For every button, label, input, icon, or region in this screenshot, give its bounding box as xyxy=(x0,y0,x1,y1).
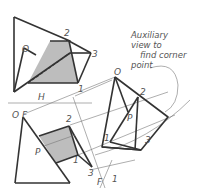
front-view: O F 2 P 1 3 F 1 xyxy=(12,110,118,187)
front-label-1: 1 xyxy=(73,155,79,165)
top-label-2: 2 xyxy=(64,28,70,38)
front-label-p: P xyxy=(35,147,41,157)
fold-label-h: H xyxy=(38,92,45,102)
front-label-2: 2 xyxy=(66,114,72,124)
front-label-3: 3 xyxy=(88,168,94,178)
top-label-3: 3 xyxy=(92,49,98,59)
svg-text:find corner: find corner xyxy=(140,50,187,60)
aux-label-o: O xyxy=(114,67,121,77)
aux-fold-label-1: 1 xyxy=(112,174,118,184)
aux-label-3: 3 xyxy=(145,135,151,145)
svg-text:point: point xyxy=(130,60,153,70)
aux-label-p: P xyxy=(127,113,133,123)
top-view: O 2 3 1 xyxy=(14,17,98,94)
top-label-o: O xyxy=(22,44,29,54)
auxiliary-view: O 2 P 1 3 xyxy=(102,67,168,150)
projection-lines xyxy=(24,66,190,188)
svg-text:view to: view to xyxy=(131,40,162,50)
auxiliary-view-diagram: O 2 3 1 H O F 2 P 1 3 F 1 xyxy=(0,0,223,188)
aux-label-2: 2 xyxy=(140,87,146,97)
aux-label-1: 1 xyxy=(104,133,110,143)
aux-fold-label-f: F xyxy=(97,177,103,187)
svg-text:Auxiliary: Auxiliary xyxy=(130,30,169,40)
front-label-of: O F xyxy=(12,110,28,120)
annotation-note: Auxiliary view to find corner point xyxy=(130,30,187,70)
